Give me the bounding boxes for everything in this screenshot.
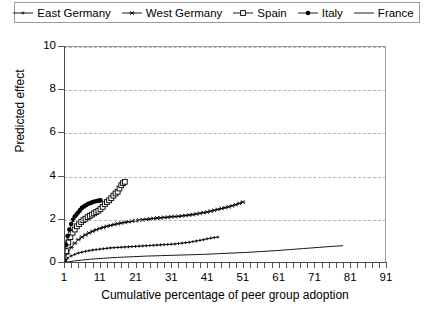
- x-tick-mark-51: [243, 263, 244, 268]
- legend-label: France: [376, 7, 423, 19]
- x-tick-mark-35: [186, 263, 187, 268]
- y-tick-label-0: 0: [26, 256, 56, 267]
- y-tick-label-8: 8: [26, 83, 56, 94]
- x-tick-mark-77: [336, 263, 337, 268]
- x-tick-label-61: 61: [264, 271, 294, 283]
- x-tick-label-31: 31: [156, 271, 186, 283]
- legend-label: Spain: [255, 7, 295, 19]
- x-tick-mark-27: [157, 263, 158, 268]
- series-east-germany: [64, 236, 219, 263]
- x-tick-mark-43: [214, 263, 215, 268]
- y-tick-label-10: 10: [26, 40, 56, 51]
- legend-marker-asterisk-icon: [120, 7, 144, 19]
- y-tick-label-4: 4: [26, 170, 56, 181]
- legend-item-italy[interactable]: Italy: [296, 7, 352, 19]
- x-tick-mark-5: [78, 263, 79, 268]
- x-tick-mark-21: [136, 263, 137, 268]
- y-tick-mark-4: [58, 176, 64, 177]
- x-tick-mark-29: [164, 263, 165, 268]
- x-axis-line: [64, 262, 387, 263]
- x-tick-mark-83: [357, 263, 358, 268]
- x-tick-mark-3: [71, 263, 72, 268]
- legend-marker-tiny-line-dot-icon: [11, 7, 35, 19]
- x-tick-label-71: 71: [299, 271, 329, 283]
- gridline-y-8: [64, 90, 386, 91]
- x-tick-mark-15: [114, 263, 115, 268]
- x-tick-mark-33: [178, 263, 179, 268]
- x-tick-mark-63: [286, 263, 287, 268]
- y-tick-mark-6: [58, 132, 64, 133]
- legend-label: East Germany: [35, 7, 120, 19]
- y-axis-line: [64, 46, 65, 263]
- x-tick-mark-39: [200, 263, 201, 268]
- y-tick-label-6: 6: [26, 126, 56, 137]
- x-tick-mark-41: [207, 263, 208, 268]
- x-tick-mark-23: [143, 263, 144, 268]
- x-tick-label-21: 21: [121, 271, 151, 283]
- legend-item-west-germany[interactable]: West Germany: [120, 7, 231, 19]
- legend-item-east-germany[interactable]: East Germany: [11, 7, 120, 19]
- x-tick-mark-67: [300, 263, 301, 268]
- x-tick-mark-69: [307, 263, 308, 268]
- x-tick-mark-79: [343, 263, 344, 268]
- x-tick-label-91: 91: [371, 271, 401, 283]
- x-tick-mark-37: [193, 263, 194, 268]
- gridline-y-2: [64, 220, 386, 221]
- x-tick-mark-91: [386, 263, 387, 268]
- legend-marker-none-icon: [352, 7, 376, 19]
- legend-marker-open-square-icon: [231, 7, 255, 19]
- x-tick-label-1: 1: [49, 271, 79, 283]
- x-tick-mark-7: [85, 263, 86, 268]
- x-tick-mark-55: [257, 263, 258, 268]
- legend-marker-filled-circle-icon: [296, 7, 320, 19]
- gridline-y-4: [64, 177, 386, 178]
- x-tick-mark-89: [379, 263, 380, 268]
- legend-label: West Germany: [144, 7, 231, 19]
- y-tick-mark-10: [58, 46, 64, 47]
- legend-item-spain[interactable]: Spain: [231, 7, 295, 19]
- data-series-layer: [64, 47, 386, 263]
- x-tick-label-81: 81: [335, 271, 365, 283]
- legend-item-france[interactable]: France: [352, 7, 423, 19]
- x-tick-mark-45: [221, 263, 222, 268]
- x-tick-mark-1: [64, 263, 65, 268]
- x-tick-mark-13: [107, 263, 108, 268]
- gridline-y-10: [64, 47, 386, 48]
- x-tick-mark-53: [250, 263, 251, 268]
- y-axis-title: Predicted effect: [13, 31, 27, 191]
- x-tick-mark-9: [93, 263, 94, 268]
- gridline-y-6: [64, 133, 386, 134]
- x-tick-mark-85: [365, 263, 366, 268]
- x-tick-mark-71: [314, 263, 315, 268]
- x-tick-mark-81: [350, 263, 351, 268]
- legend-label: Italy: [320, 7, 352, 19]
- x-tick-mark-57: [264, 263, 265, 268]
- x-tick-mark-31: [171, 263, 172, 268]
- y-tick-mark-8: [58, 89, 64, 90]
- x-tick-mark-49: [236, 263, 237, 268]
- chart-screenshot: East GermanyWest GermanySpainItalyFrance…: [0, 0, 428, 322]
- x-tick-label-11: 11: [85, 271, 115, 283]
- x-tick-mark-73: [322, 263, 323, 268]
- plot-area: [64, 46, 386, 262]
- x-tick-mark-59: [272, 263, 273, 268]
- x-tick-mark-65: [293, 263, 294, 268]
- y-tick-mark-2: [58, 219, 64, 220]
- x-tick-mark-19: [128, 263, 129, 268]
- y-tick-label-2: 2: [26, 213, 56, 224]
- x-tick-label-41: 41: [192, 271, 222, 283]
- x-tick-mark-75: [329, 263, 330, 268]
- x-tick-mark-87: [372, 263, 373, 268]
- x-tick-mark-25: [150, 263, 151, 268]
- chart-legend: East GermanyWest GermanySpainItalyFrance: [14, 2, 420, 23]
- x-axis-title: Cumulative percentage of peer group adop…: [64, 288, 386, 302]
- x-tick-mark-61: [279, 263, 280, 268]
- x-tick-label-51: 51: [228, 271, 258, 283]
- x-tick-mark-47: [229, 263, 230, 268]
- x-tick-mark-17: [121, 263, 122, 268]
- x-tick-mark-11: [100, 263, 101, 268]
